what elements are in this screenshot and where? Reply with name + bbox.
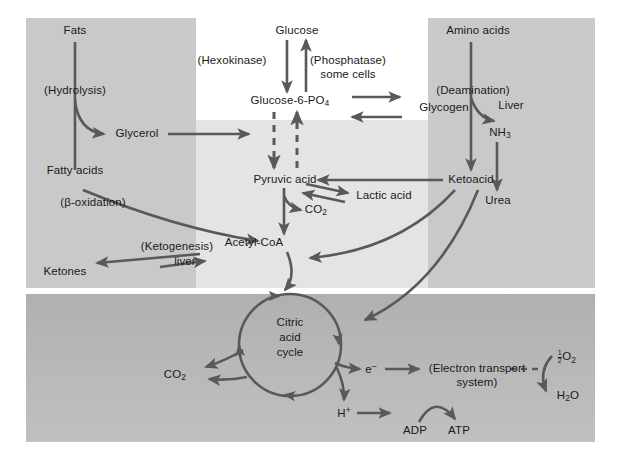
- label-amino-acids: Amino acids: [446, 24, 510, 37]
- label-ketoacid: Ketoacid: [448, 173, 494, 186]
- label-glucose: Glucose: [276, 24, 319, 37]
- label-ketones: Ketones: [44, 265, 87, 278]
- label-fats: Fats: [64, 24, 87, 37]
- metabolism-diagram: Fats (Hydrolysis) Glycerol Fatty acids (…: [0, 0, 619, 459]
- label-proton: H+: [337, 406, 350, 420]
- label-glucose-6-po4: Glucose-6-PO4: [251, 94, 330, 109]
- label-atp: ATP: [448, 424, 470, 437]
- label-liver-ketogenesis: liver: [174, 255, 196, 268]
- cycle-arrowhead-bottom: [285, 395, 294, 396]
- label-phosphatase: (Phosphatase): [310, 54, 386, 67]
- label-nh3: NH3: [489, 126, 511, 141]
- label-urea: Urea: [485, 194, 510, 207]
- label-acetyl-coa: Acetyl-CoA: [225, 236, 284, 249]
- amino-acids-panel-overlay: [428, 120, 595, 288]
- label-hexokinase: (Hexokinase): [198, 54, 267, 67]
- diagram-canvas: [0, 0, 619, 459]
- cycle-arrowhead-right: [338, 336, 339, 344]
- label-citric-line1: Citric: [277, 316, 304, 329]
- label-pyruvic-acid: Pyruvic acid: [253, 173, 316, 186]
- label-hydrolysis: (Hydrolysis): [44, 84, 106, 97]
- label-co2-cycle: CO2: [164, 368, 186, 383]
- label-lactic-acid: Lactic acid: [356, 189, 411, 202]
- label-citric-line3: cycle: [277, 346, 304, 359]
- label-adp: ADP: [403, 424, 427, 437]
- label-electron: e–: [365, 362, 376, 376]
- label-citric-line2: acid: [279, 331, 301, 344]
- label-electron-transport-2: system): [457, 376, 498, 389]
- label-beta-oxidation: (β-oxidation): [60, 196, 125, 209]
- label-ketogenesis: (Ketogenesis): [141, 240, 213, 253]
- label-glycerol: Glycerol: [116, 127, 159, 140]
- label-deamination: (Deamination): [436, 84, 510, 97]
- label-half-oxygen: 12O2: [558, 350, 576, 365]
- label-some-cells: some cells: [320, 68, 375, 81]
- label-co2-glycolysis: CO2: [305, 203, 327, 218]
- label-electron-transport: (Electron transport: [429, 362, 526, 375]
- label-liver-deamination: Liver: [498, 99, 523, 112]
- label-water: H2O: [557, 389, 579, 404]
- label-fatty-acids: Fatty acids: [47, 164, 104, 177]
- label-glycogen: Glycogen: [419, 101, 468, 114]
